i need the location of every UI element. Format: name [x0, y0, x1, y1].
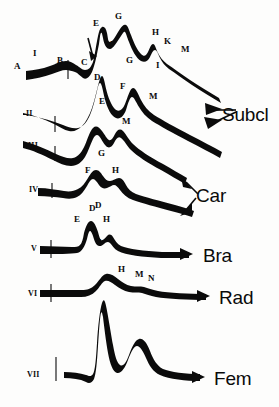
bra-arrowhead [180, 248, 193, 260]
point-label-V-E: E [74, 214, 80, 224]
point-label-II-E: E [99, 96, 105, 106]
point-label-II-F: F [120, 81, 126, 91]
trace-roman-IV: IV [29, 185, 38, 194]
point-label-I-H: H [152, 27, 159, 37]
point-label-I-A: A [14, 61, 21, 71]
vessel-label-fem: Fem [214, 368, 251, 389]
point-label-VI-M: M [135, 269, 144, 279]
waveform-trace-I [26, 25, 221, 103]
waveform-trace-VI [40, 274, 206, 300]
point-label-I-I: I [33, 48, 37, 58]
point-label-I-E: E [93, 18, 99, 28]
point-label-II-D: D [94, 72, 101, 82]
point-label-V-I: I [98, 237, 102, 247]
vessel-label-bra: Bra [203, 245, 233, 266]
trace-group-I [26, 25, 221, 103]
trace-roman-VII: VII [27, 370, 40, 379]
point-label-I-K: K [164, 36, 171, 46]
point-label-IV-H: H [112, 165, 119, 175]
trace-group-VII [56, 300, 200, 383]
vessel-label-car: Car [196, 185, 227, 206]
trace-roman-II: II [26, 109, 33, 118]
point-label-VI-N: N [148, 273, 155, 283]
trace-roman-V: V [31, 244, 37, 253]
point-label-V-D: D [89, 203, 96, 213]
subcl-arrowhead-upper [205, 103, 222, 115]
trace-group-VI [40, 274, 206, 302]
trace-roman-III: III [28, 141, 38, 150]
waveform-trace-IV [38, 170, 194, 217]
trace-group-IV [38, 170, 194, 217]
point-label-I-C: C [81, 57, 88, 67]
fem-arrowhead [192, 371, 205, 383]
point-label-II-M: M [149, 91, 158, 101]
point-label-II-G: G [126, 55, 133, 65]
point-label-IV-D: D [95, 200, 102, 210]
point-label-I-M: M [181, 44, 190, 54]
point-label-I-F: F [110, 39, 116, 49]
vessel-label-subcl: Subcl [222, 104, 269, 125]
point-label-I-G: G [115, 11, 122, 21]
trace-roman-VI: VI [28, 289, 37, 298]
point-label-VI-H: H [118, 264, 125, 274]
pulse-wave-canvas: II III IV V VI VII A I B C E G F H K M D… [0, 0, 279, 407]
rad-arrowhead [197, 290, 210, 302]
point-label-IV-G: G [98, 148, 105, 158]
rad-arrow-group [188, 290, 210, 302]
point-label-II-I: I [156, 60, 160, 70]
point-label-IV-F: F [85, 165, 91, 175]
vessel-label-rad: Rad [219, 287, 253, 308]
waveform-trace-V [40, 221, 189, 258]
waveform-trace-VII [64, 300, 200, 383]
fem-arrow-group [184, 371, 205, 383]
point-label-III-M: M [122, 116, 131, 126]
bra-arrow-group [170, 248, 193, 260]
point-label-I-B: B [57, 55, 63, 65]
point-label-V-H: H [103, 214, 110, 224]
trace-group-V [40, 221, 189, 258]
subcl-arrowhead-lower [204, 117, 222, 129]
figure-root: II III IV V VI VII A I B C E G F H K M D… [0, 0, 279, 407]
